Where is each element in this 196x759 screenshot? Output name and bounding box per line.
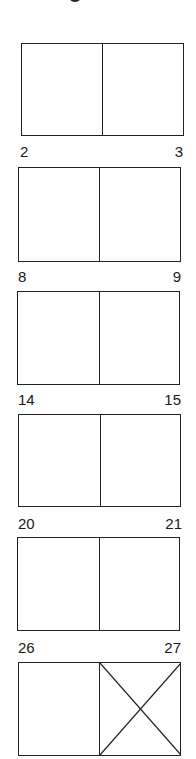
page-number-left: 8 bbox=[18, 269, 26, 284]
spread-box-3 bbox=[17, 291, 180, 385]
top-partial-glyph bbox=[68, 0, 82, 2]
spread-divider bbox=[99, 538, 100, 630]
cross-out-icon bbox=[100, 663, 181, 755]
page-number-left: 26 bbox=[18, 640, 35, 655]
spread-divider bbox=[100, 415, 101, 506]
spread-divider bbox=[102, 44, 103, 135]
page-number-right: 27 bbox=[164, 640, 181, 655]
page-number-right: 3 bbox=[175, 144, 183, 159]
spread-box-5 bbox=[17, 537, 180, 631]
page-number-left: 14 bbox=[18, 392, 35, 407]
page-number-right: 9 bbox=[173, 269, 181, 284]
spread-box-4 bbox=[18, 414, 181, 507]
page-number-left: 2 bbox=[20, 144, 28, 159]
spread-divider bbox=[99, 292, 100, 384]
page-number-left: 20 bbox=[18, 516, 35, 531]
spread-box-2 bbox=[18, 167, 181, 262]
page-number-right: 15 bbox=[164, 392, 181, 407]
page-number-right: 21 bbox=[165, 516, 182, 531]
spread-divider bbox=[99, 168, 100, 261]
spread-box-6 bbox=[18, 662, 181, 756]
spread-box-1 bbox=[21, 43, 184, 136]
